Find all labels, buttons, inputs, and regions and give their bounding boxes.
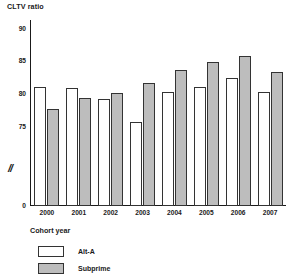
bar-2005-alt-a [194, 87, 206, 207]
bar-2005-subprime [207, 62, 219, 206]
y-tick-label: 85 [19, 57, 26, 64]
x-tick-label-2003: 2003 [135, 209, 150, 216]
bar-2001-subprime [79, 98, 91, 206]
bar-2003-subprime [143, 83, 155, 206]
legend-label: Subprime [78, 265, 110, 272]
y-axis-tick-labels: 908580750 [0, 0, 26, 279]
bar-2004-alt-a [162, 92, 174, 206]
legend-swatch-alt-a [38, 246, 64, 257]
cltv-ratio-bar-chart: CLTV ratio 908580750 // 2000200120022003… [0, 0, 299, 279]
x-tick-label-2007: 2007 [263, 209, 278, 216]
x-tick-label-2006: 2006 [231, 209, 246, 216]
bar-2004-subprime [175, 70, 187, 206]
chart-legend: Alt-ASubprime [38, 244, 110, 278]
legend-swatch-subprime [38, 263, 64, 274]
bar-2007-alt-a [258, 92, 270, 206]
legend-label: Alt-A [78, 248, 95, 255]
bars-layer [31, 20, 286, 206]
bar-2002-subprime [111, 93, 123, 206]
y-tick-label: 0 [22, 202, 26, 209]
bar-2000-subprime [47, 109, 59, 206]
x-tick-label-2005: 2005 [199, 209, 214, 216]
x-axis-title: Cohort year [30, 226, 70, 235]
bar-2000-alt-a [34, 87, 46, 207]
axis-break-icon: // [8, 163, 12, 174]
y-tick-label: 90 [19, 25, 26, 32]
x-tick-label-2000: 2000 [40, 209, 55, 216]
bar-2006-subprime [239, 56, 251, 206]
x-tick-label-2002: 2002 [103, 209, 118, 216]
y-tick-label: 80 [19, 90, 26, 97]
bar-2006-alt-a [226, 78, 238, 206]
x-tick-label-2004: 2004 [167, 209, 182, 216]
bar-2007-subprime [271, 72, 283, 206]
bar-2001-alt-a [66, 88, 78, 206]
bar-2002-alt-a [98, 99, 110, 206]
legend-item-alt-a: Alt-A [38, 244, 110, 259]
y-tick-label: 75 [19, 123, 26, 130]
x-tick-label-2001: 2001 [71, 209, 86, 216]
bar-2003-alt-a [130, 122, 142, 206]
legend-item-subprime: Subprime [38, 261, 110, 276]
